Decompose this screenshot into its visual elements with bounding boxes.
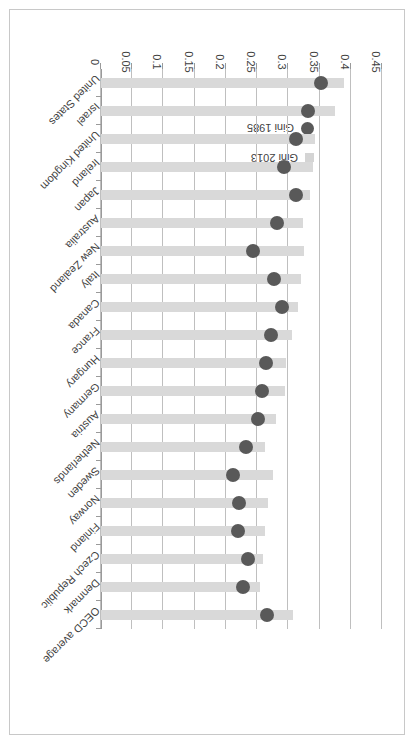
chart-row (101, 181, 382, 209)
chart-row (101, 573, 382, 601)
axis-tick-label: 0.15 (183, 42, 195, 82)
bar-gini-2013 (101, 470, 273, 480)
dot-gini-1985 (277, 160, 291, 174)
chart-row (101, 293, 382, 321)
chart-row (101, 265, 382, 293)
axis-tick-label: 0.2 (214, 42, 226, 82)
dot-gini-1985 (260, 608, 274, 622)
bar-gini-2013 (101, 330, 292, 340)
dot-gini-1985 (259, 356, 273, 370)
chart-row (101, 349, 382, 377)
bar-gini-2013 (101, 106, 335, 116)
chart-row (101, 489, 382, 517)
rotated-page-wrapper: Gini 2013 Gini 1985 00.050.10.150.20.250… (0, 0, 413, 745)
chart-row (101, 321, 382, 349)
bar-rows (101, 69, 382, 629)
dot-gini-1985 (241, 552, 255, 566)
dot-gini-1985 (267, 272, 281, 286)
axis-tick-label: 0.45 (370, 42, 382, 82)
plot-area (101, 69, 382, 629)
chart-row (101, 545, 382, 573)
axis-tick-label: 0.3 (276, 42, 288, 82)
chart-frame: Gini 2013 Gini 1985 00.050.10.150.20.250… (9, 9, 405, 735)
bar-gini-2013 (101, 246, 304, 256)
chart-row (101, 517, 382, 545)
chart-row (101, 237, 382, 265)
axis-tick-label: 0.35 (308, 42, 320, 82)
chart-row (101, 433, 382, 461)
bar-gini-2013 (101, 554, 263, 564)
dot-gini-1985 (270, 216, 284, 230)
category-axis-labels: OECD averageDenmarkCzech RepublicFinland… (0, 44, 98, 629)
chart-row (101, 601, 382, 629)
chart-row (101, 153, 382, 181)
axis-tick-label: 0.25 (245, 42, 257, 82)
chart-row (101, 209, 382, 237)
value-axis-labels: 00.050.10.150.20.250.30.350.40.45 (79, 2, 404, 62)
dot-gini-1985 (246, 244, 260, 258)
category-label: Japan (73, 185, 103, 215)
chart-row (101, 97, 382, 125)
axis-tick-label: 0.1 (151, 42, 163, 82)
chart-row (101, 405, 382, 433)
chart-row (101, 377, 382, 405)
dot-gini-1985 (232, 496, 246, 510)
dot-gini-1985 (236, 580, 250, 594)
category-label: New Zealand (48, 241, 102, 295)
dot-gini-1985 (226, 468, 240, 482)
axis-tick-label: 0.05 (120, 42, 132, 82)
bar-gini-2013 (101, 302, 298, 312)
bar-gini-2013 (101, 134, 315, 144)
chart-row (101, 461, 382, 489)
dot-gini-1985 (255, 384, 269, 398)
chart-row (101, 125, 382, 153)
dot-gini-1985 (275, 300, 289, 314)
bar-gini-2013 (101, 190, 310, 200)
axis-tick-label: 0.4 (339, 42, 351, 82)
dot-gini-1985 (251, 412, 265, 426)
